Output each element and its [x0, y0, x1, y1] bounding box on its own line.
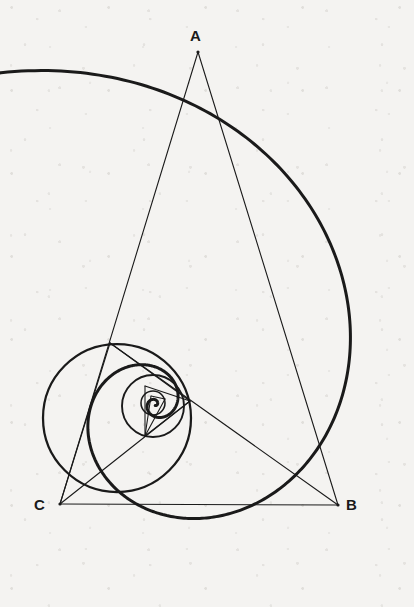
figure-canvas — [0, 0, 414, 607]
logarithmic-spiral-curve — [0, 71, 350, 519]
segment-l2-base-to-l1b — [145, 401, 190, 436]
vertex-point-a — [196, 50, 199, 53]
vertex-point-b — [336, 503, 339, 506]
segment-c-to-b — [60, 504, 338, 505]
triangle-vertices — [58, 50, 339, 506]
vertex-label-a: A — [190, 28, 201, 43]
segment-a-to-b — [198, 52, 338, 505]
geometry-figure: A B C — [0, 0, 414, 607]
triangle-segments — [60, 52, 338, 505]
vertex-label-c: C — [34, 497, 45, 512]
vertex-label-b: B — [346, 497, 357, 512]
vertex-point-c — [58, 502, 61, 505]
segment-l1-apex-to-c — [60, 343, 110, 504]
